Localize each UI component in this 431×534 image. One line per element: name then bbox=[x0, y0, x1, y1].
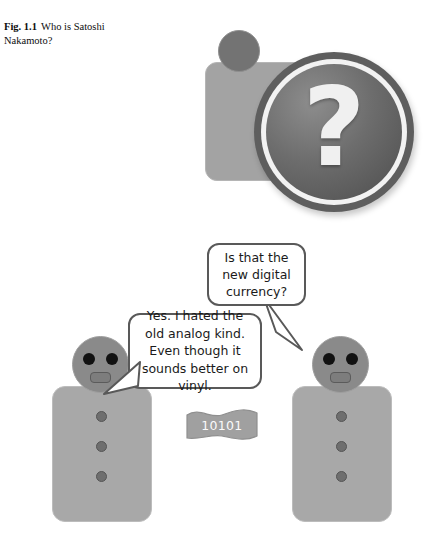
speech-bubble-question-text: Is that the new digital currency? bbox=[216, 249, 297, 300]
speech-bubble-question: Is that the new digital currency? bbox=[207, 243, 306, 306]
character-left-button-1 bbox=[96, 411, 107, 422]
character-left-eye-left bbox=[83, 353, 95, 365]
binary-banner-label: 10101 bbox=[185, 409, 259, 443]
binary-banner: 10101 bbox=[185, 409, 259, 443]
character-right-mouth bbox=[330, 372, 351, 383]
character-right-button-2 bbox=[336, 441, 347, 452]
character-right bbox=[292, 336, 392, 522]
character-right-eye-right bbox=[346, 353, 358, 365]
character-left-button-2 bbox=[96, 441, 107, 452]
character-left-body bbox=[52, 386, 152, 522]
character-right-body bbox=[292, 386, 392, 522]
unknown-person-illustration: ? bbox=[196, 24, 421, 204]
question-mark-glyph: ? bbox=[266, 64, 402, 200]
question-mark-badge-icon: ? bbox=[254, 52, 414, 212]
figure-caption: Fig. 1.1Who is Satoshi Nakamoto? bbox=[4, 20, 154, 47]
speech-bubble-answer-text: Yes. I hated the old analog kind. Even t… bbox=[137, 307, 253, 395]
answer-bubble-tail bbox=[100, 360, 148, 402]
speech-bubble-answer: Yes. I hated the old analog kind. Even t… bbox=[128, 313, 262, 389]
figure-caption-label: Fig. 1.1 bbox=[4, 21, 37, 32]
character-left-button-3 bbox=[96, 471, 107, 482]
character-right-button-1 bbox=[336, 411, 347, 422]
character-right-button-3 bbox=[336, 471, 347, 482]
